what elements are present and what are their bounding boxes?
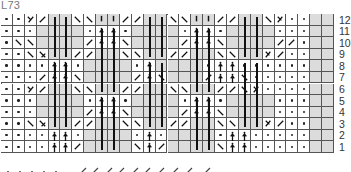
stitch-symbol-icon — [120, 107, 131, 118]
chart-cell — [37, 14, 49, 26]
stitch-symbol-icon — [37, 84, 48, 95]
chart-cell — [227, 107, 239, 119]
chart-cell — [120, 26, 132, 38]
purl-dot-icon — [279, 134, 281, 136]
chart-cell — [84, 84, 96, 96]
chart-cell — [120, 107, 132, 119]
purl-dot-icon — [303, 146, 305, 148]
chart-cell — [84, 107, 96, 119]
purl-dot-icon — [279, 111, 281, 113]
purl-dot-icon — [5, 64, 7, 66]
cable-line-icon — [256, 63, 258, 127]
row-number: 2 — [339, 129, 351, 141]
row-number: 12 — [339, 14, 351, 26]
chart-cell — [132, 84, 144, 96]
stitch-symbol-icon — [37, 118, 48, 129]
chart-cell — [298, 60, 310, 72]
stitch-symbol-icon — [120, 49, 131, 60]
stitch-symbol-icon — [84, 37, 95, 48]
chart-cell — [263, 49, 275, 61]
chart-cell — [215, 84, 227, 96]
chart-cell — [13, 84, 25, 96]
chart-cell — [25, 60, 37, 72]
stitch-symbol-icon — [215, 72, 226, 83]
chart-cell — [72, 14, 84, 26]
chart-cell — [286, 118, 298, 130]
chart-cell — [13, 60, 25, 72]
stitch-symbol-icon — [120, 14, 131, 25]
chart-cell — [322, 118, 334, 130]
chart-cell — [132, 14, 144, 26]
chart-cell — [263, 60, 275, 72]
purl-dot-icon — [303, 76, 305, 78]
stitch-symbol-icon — [286, 37, 297, 48]
purl-dot-icon — [17, 88, 19, 90]
chart-cell — [298, 72, 310, 84]
chart-cell — [298, 49, 310, 61]
stitch-symbol-icon — [25, 14, 36, 25]
purl-dot-icon — [29, 134, 31, 136]
chart-cell — [179, 37, 191, 49]
stitch-symbol-icon — [179, 84, 190, 95]
chart-cell — [60, 130, 72, 142]
chart-cell — [286, 49, 298, 61]
stitch-symbol-icon — [168, 84, 179, 95]
chart-cell — [84, 60, 96, 72]
stitch-symbol-icon — [120, 118, 131, 129]
chart-cell — [1, 26, 13, 38]
chart-cell — [96, 14, 108, 26]
chart-cell — [72, 141, 84, 153]
chart-cell — [37, 37, 49, 49]
stitch-symbol-icon — [60, 130, 71, 141]
stitch-symbol-icon — [215, 49, 226, 60]
chart-cell — [286, 37, 298, 49]
cable-line-icon — [101, 98, 103, 150]
chart-cell — [25, 72, 37, 84]
row-number: 11 — [339, 25, 351, 37]
stitch-symbol-icon — [179, 14, 190, 25]
chart-cell — [263, 37, 275, 49]
chart-cell — [215, 130, 227, 142]
chart-cell — [37, 107, 49, 119]
chart-cell — [286, 14, 298, 26]
chart-cell — [168, 130, 180, 142]
purl-dot-icon — [17, 18, 19, 20]
chart-cell — [25, 84, 37, 96]
chart-cell — [120, 14, 132, 26]
chart-cell — [168, 26, 180, 38]
purl-dot-icon — [279, 146, 281, 148]
stitch-symbol-icon — [227, 141, 238, 152]
chart-cell — [132, 95, 144, 107]
purl-dot-icon — [184, 99, 186, 101]
chart-cell — [215, 107, 227, 119]
chart-cell — [275, 60, 287, 72]
purl-dot-icon — [219, 134, 221, 136]
purl-dot-icon — [29, 30, 31, 32]
chart-cell — [37, 118, 49, 130]
chart-cell — [227, 60, 239, 72]
chart-cell — [72, 72, 84, 84]
chart-cell — [310, 84, 322, 96]
chart-cell — [310, 14, 322, 26]
chart-cell — [49, 141, 61, 153]
chart-cell — [84, 95, 96, 107]
chart-cell — [144, 141, 156, 153]
purl-dot-icon — [303, 53, 305, 55]
purl-dot-icon — [17, 122, 19, 124]
stitch-symbol-icon — [132, 49, 143, 60]
knitting-chart-grid — [1, 14, 334, 153]
stitch-symbol-icon — [72, 14, 83, 25]
chart-cell — [1, 49, 13, 61]
stitch-symbol-icon — [168, 49, 179, 60]
stitch-symbol-icon — [25, 84, 36, 95]
chart-cell — [1, 84, 13, 96]
purl-dot-icon — [17, 53, 19, 55]
cable-line-icon — [244, 17, 246, 57]
chart-cell — [156, 141, 168, 153]
chart-cell — [25, 107, 37, 119]
chart-cell — [25, 26, 37, 38]
purl-dot-icon — [5, 99, 7, 101]
purl-dot-icon — [5, 18, 7, 20]
stitch-symbol-icon — [239, 141, 250, 152]
stitch-symbol-icon — [203, 14, 214, 25]
